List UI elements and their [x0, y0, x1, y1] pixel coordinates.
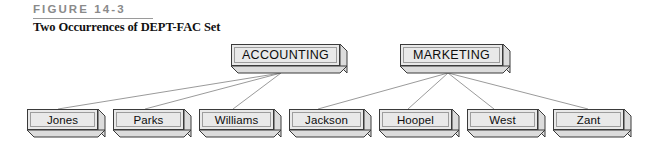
owner-record-box-marketing: MARKETING: [400, 44, 510, 73]
record-box-bottom-face: [467, 130, 545, 137]
record-box-face: West: [467, 109, 538, 130]
record-box-bottom-face: [113, 130, 191, 137]
record-box-face: Hoopel: [379, 109, 452, 130]
record-box-face: Parks: [113, 109, 184, 130]
member-record-box-williams: Williams: [199, 109, 281, 137]
set-connector-accounting-to-williams: [233, 73, 281, 109]
record-box-face: Jackson: [289, 109, 364, 130]
set-connector-accounting-to-parks: [145, 73, 281, 109]
record-box-label: MARKETING: [401, 45, 502, 65]
record-box-label: Williams: [200, 110, 273, 129]
record-box-bottom-face: [379, 130, 459, 137]
member-record-box-parks: Parks: [113, 109, 191, 137]
record-box-label: West: [468, 110, 537, 129]
record-box-bottom-face: [231, 66, 347, 73]
record-box-bottom-face: [553, 130, 631, 137]
record-box-face: Jones: [27, 109, 98, 130]
record-box-bottom-face: [199, 130, 281, 137]
record-box-label: Jones: [28, 110, 97, 129]
record-box-label: Zant: [554, 110, 623, 129]
member-record-box-zant: Zant: [553, 109, 631, 137]
record-box-face: MARKETING: [400, 44, 503, 66]
record-box-face: Zant: [553, 109, 624, 130]
record-box-label: Jackson: [290, 110, 363, 129]
set-connector-marketing-to-west: [448, 73, 494, 109]
set-connector-accounting-to-jones: [58, 73, 281, 109]
owner-record-box-accounting: ACCOUNTING: [231, 44, 347, 73]
record-box-bottom-face: [289, 130, 371, 137]
set-connector-marketing-to-zant: [448, 73, 588, 109]
member-record-box-hoopel: Hoopel: [379, 109, 459, 137]
record-box-face: Williams: [199, 109, 274, 130]
record-box-bottom-face: [400, 66, 510, 73]
record-box-label: Parks: [114, 110, 183, 129]
record-box-label: Hoopel: [380, 110, 451, 129]
member-record-box-jones: Jones: [27, 109, 105, 137]
record-box-label: ACCOUNTING: [232, 45, 339, 65]
record-box-bottom-face: [27, 130, 105, 137]
figure-container: FIGURE 14-3 Two Occurrences of DEPT-FAC …: [0, 0, 653, 151]
member-record-box-west: West: [467, 109, 545, 137]
member-record-box-jackson: Jackson: [289, 109, 371, 137]
record-box-face: ACCOUNTING: [231, 44, 340, 66]
